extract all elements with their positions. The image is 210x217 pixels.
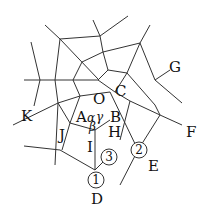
label-G: G: [169, 58, 181, 76]
label-K: K: [21, 107, 33, 125]
label-D: D: [91, 190, 103, 208]
diagram-canvas: 1 2 3 O C G K A α γ B β H F J I E D: [0, 0, 210, 217]
marker-2-label: 2: [135, 143, 143, 157]
markers: 1 2 3: [88, 142, 147, 188]
marker-1-label: 1: [92, 173, 100, 187]
label-E: E: [148, 157, 159, 175]
label-F: F: [186, 123, 196, 141]
marker-3-label: 3: [105, 150, 113, 164]
label-A: A: [75, 108, 87, 126]
label-O: O: [93, 90, 105, 108]
label-I: I: [87, 138, 93, 156]
web-diagram: 1 2 3 O C G K A α γ B β H F J I E D: [0, 0, 210, 217]
label-beta: β: [88, 120, 96, 134]
label-H: H: [108, 123, 121, 141]
label-C: C: [115, 82, 126, 100]
label-J: J: [57, 126, 65, 144]
label-gamma: γ: [96, 110, 104, 124]
